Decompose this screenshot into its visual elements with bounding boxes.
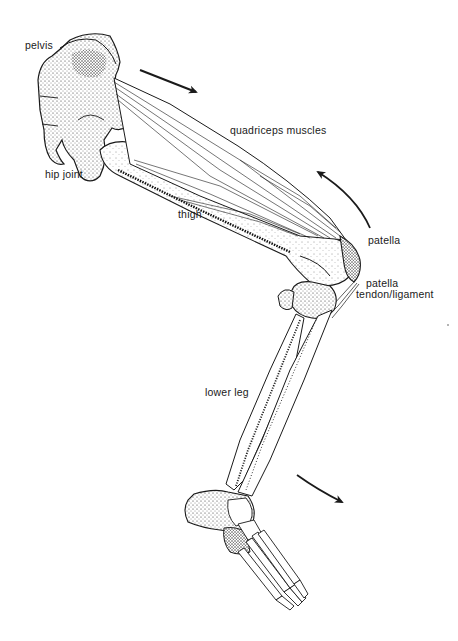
tibia-fibula-bones: [226, 310, 332, 496]
label-patella: patella: [368, 234, 400, 246]
leg-anatomy-diagram: pelvis hip joint quadriceps muscles thig…: [0, 0, 458, 641]
label-quadriceps-muscles: quadriceps muscles: [230, 124, 326, 136]
leg-skeleton-illustration: [0, 0, 458, 641]
label-hip-joint: hip joint: [45, 168, 83, 180]
stray-mark: [447, 324, 449, 326]
foot-bones: [185, 490, 308, 610]
lower-leg-swing-arrow-icon: [297, 475, 342, 502]
label-patella-tendon-line2: tendon/ligament: [356, 288, 434, 300]
label-lower-leg: lower leg: [205, 386, 249, 398]
label-thigh: thigh: [178, 208, 202, 220]
label-pelvis: pelvis: [25, 39, 53, 51]
quadriceps-pull-arrow-icon: [140, 70, 196, 92]
